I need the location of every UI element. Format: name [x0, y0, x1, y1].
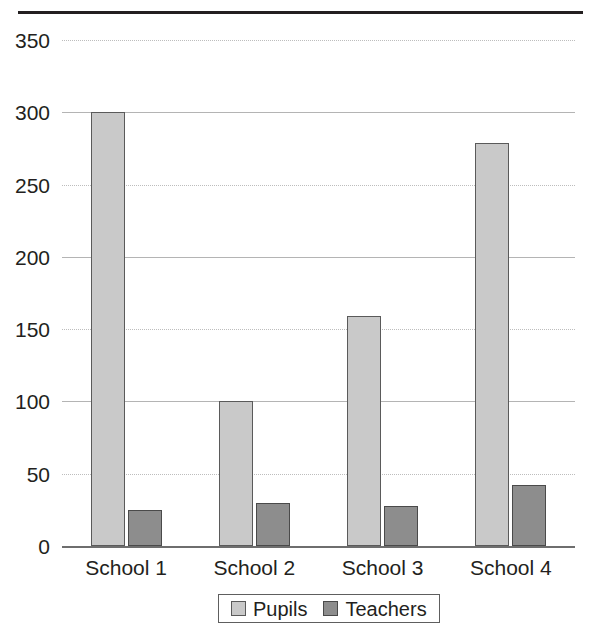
chart-figure: 050100150200250300350 School 1School 2Sc… [0, 0, 595, 638]
y-tick-label-300: 300 [0, 102, 50, 123]
chart-legend: PupilsTeachers [218, 594, 440, 623]
bar-teachers-school-1 [128, 510, 162, 546]
x-label-school-2: School 2 [214, 556, 296, 580]
bar-pupils-school-1 [91, 112, 125, 546]
legend-item-pupils: Pupils [231, 599, 307, 619]
top-rule-divider [18, 11, 583, 14]
x-axis-category-labels: School 1School 2School 3School 4 [62, 556, 575, 586]
y-tick-label-100: 100 [0, 391, 50, 412]
bar-teachers-school-3 [384, 506, 418, 546]
y-tick-label-50: 50 [0, 463, 50, 484]
bar-pupils-school-4 [475, 143, 509, 546]
y-tick-label-250: 250 [0, 174, 50, 195]
x-label-school-3: School 3 [342, 556, 424, 580]
legend-swatch-teachers [323, 601, 338, 616]
y-tick-label-150: 150 [0, 319, 50, 340]
bar-series-layer [62, 40, 575, 548]
legend-label-pupils: Pupils [253, 599, 307, 619]
legend-label-teachers: Teachers [345, 599, 426, 619]
bar-teachers-school-4 [512, 485, 546, 546]
legend-swatch-pupils [231, 601, 246, 616]
x-label-school-4: School 4 [470, 556, 552, 580]
y-tick-label-0: 0 [0, 536, 50, 557]
bar-pupils-school-3 [347, 316, 381, 546]
bar-teachers-school-2 [256, 503, 290, 546]
y-tick-label-350: 350 [0, 30, 50, 51]
y-tick-label-200: 200 [0, 246, 50, 267]
x-label-school-1: School 1 [85, 556, 167, 580]
bar-pupils-school-2 [219, 401, 253, 546]
legend-item-teachers: Teachers [323, 599, 426, 619]
